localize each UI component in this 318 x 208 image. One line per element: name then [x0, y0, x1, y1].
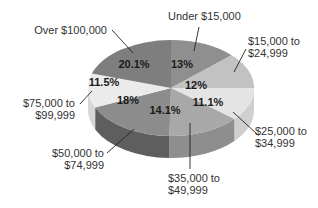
- category-label: $15,000 to$24,999: [248, 35, 300, 59]
- category-label: Over $100,000: [34, 24, 107, 36]
- category-label: $50,000 to$74,999: [52, 147, 104, 171]
- category-label: Under $15,000: [168, 10, 241, 22]
- category-label: $25,000 to$34,999: [255, 125, 307, 149]
- percent-label: 14.1%: [149, 104, 180, 116]
- percent-label: 11.1%: [193, 96, 224, 108]
- income-pie-chart: 13%12%11.1%14.1%18%11.5%20.1% Under $15,…: [0, 0, 318, 208]
- percent-label: 18%: [117, 94, 139, 106]
- percent-label: 13%: [171, 58, 193, 70]
- pie-top-faces: [88, 40, 254, 136]
- category-label: $75,000 to$99,999: [23, 97, 75, 121]
- percent-label: 12%: [185, 79, 207, 91]
- percent-label: 20.1%: [118, 58, 149, 70]
- category-label: $35,000 to$49,999: [168, 172, 220, 196]
- percent-label: 11.5%: [89, 76, 120, 88]
